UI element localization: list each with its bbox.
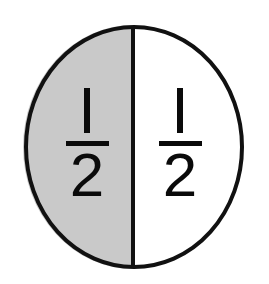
fraction-circle-diagram: 2 2 Circle divided into two equal halves…	[0, 0, 269, 284]
fraction-circle-graphic: 2 2	[0, 0, 269, 284]
left-denominator-glyph: 2	[70, 140, 104, 209]
right-numerator-glyph	[177, 88, 183, 133]
right-denominator-glyph: 2	[163, 140, 197, 209]
left-numerator-glyph	[84, 88, 90, 133]
